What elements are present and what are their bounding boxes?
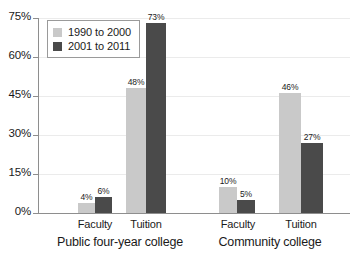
bar[interactable]: 6% [95, 197, 112, 213]
bar-value-label: 27% [304, 132, 321, 142]
bar[interactable]: 5% [237, 200, 255, 213]
y-tick-mark-0 [33, 213, 38, 214]
bar[interactable]: 10% [219, 187, 237, 213]
legend-label-1990-to-2000: 1990 to 2000 [68, 26, 131, 38]
bar-value-label: 48% [128, 77, 145, 87]
bar-value-label: 5% [240, 189, 252, 199]
legend-item-1990-to-2000[interactable]: 1990 to 2000 [53, 25, 131, 39]
category-label-tuition-community: Tuition [285, 218, 317, 230]
category-label-faculty-community: Faculty [221, 218, 255, 230]
bar-value-label: 46% [282, 82, 299, 92]
bar-value-label: 4% [80, 192, 92, 202]
bar[interactable]: 46% [279, 93, 301, 213]
legend-swatch-dark [53, 42, 62, 51]
category-label-faculty-public: Faculty [78, 218, 112, 230]
legend-label-2001-to-2011: 2001 to 2011 [68, 40, 130, 52]
legend-swatch-light [53, 28, 62, 37]
bar[interactable]: 48% [126, 88, 146, 213]
legend: 1990 to 2000 2001 to 2011 [47, 20, 140, 58]
bar-value-label: 73% [148, 12, 165, 22]
bar[interactable]: 73% [146, 23, 166, 213]
bar-value-label: 10% [220, 176, 237, 186]
group-label-community-college: Community college [219, 235, 322, 249]
x-axis-line [38, 213, 350, 214]
bar-value-label: 6% [97, 186, 109, 196]
category-label-tuition-public: Tuition [130, 218, 162, 230]
legend-item-2001-to-2011[interactable]: 2001 to 2011 [53, 39, 131, 53]
bar[interactable]: 4% [78, 203, 95, 213]
group-label-public-four-year-college: Public four-year college [57, 235, 183, 249]
bar-chart: 75% 60% 45% 30% 15% 0% 4%6%48%73%10%5%46… [0, 0, 359, 260]
bar[interactable]: 27% [301, 143, 323, 213]
